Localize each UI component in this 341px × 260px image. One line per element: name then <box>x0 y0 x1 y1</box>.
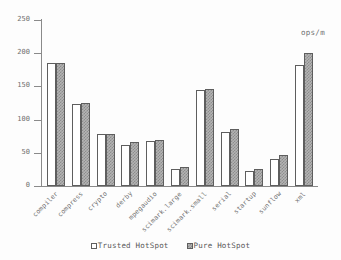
bar-pure-hotspot <box>81 103 90 186</box>
x-axis-line <box>41 186 318 187</box>
bar-trusted-hotspot <box>171 169 180 186</box>
bar-pure-hotspot <box>56 63 65 186</box>
x-axis-tick-label: xml <box>293 190 307 204</box>
bar-pure-hotspot <box>205 89 214 186</box>
y-axis-tick-label: 0 <box>26 181 34 190</box>
bar-pure-hotspot <box>230 129 239 186</box>
bar-group <box>97 20 115 186</box>
bar-pure-hotspot <box>304 53 313 186</box>
bar-group <box>270 20 288 186</box>
y-axis-tick: 200 <box>34 53 42 54</box>
legend-entry: Trusted HotSpot <box>91 241 169 251</box>
y-axis-tick: 100 <box>34 120 42 121</box>
bar-trusted-hotspot <box>270 159 279 186</box>
bar-group <box>72 20 90 186</box>
empty-square-swatch <box>91 243 97 249</box>
y-axis-tick: 50 <box>34 153 42 154</box>
bar-trusted-hotspot <box>121 145 130 186</box>
legend-label: Pure HotSpot <box>194 241 251 251</box>
bar-group <box>221 20 239 186</box>
bar-group <box>196 20 214 186</box>
bar-trusted-hotspot <box>221 132 230 186</box>
bar-group <box>295 20 313 186</box>
y-axis-tick-label: 200 <box>17 48 34 57</box>
bar-group <box>146 20 164 186</box>
bar-trusted-hotspot <box>72 104 81 186</box>
y-axis-tick-label: 250 <box>17 15 34 24</box>
y-axis-tick-label: 50 <box>22 148 34 157</box>
x-axis-tick-label: sunflow <box>257 190 283 216</box>
bar-pure-hotspot <box>106 134 115 186</box>
bar-trusted-hotspot <box>196 90 205 186</box>
bar-trusted-hotspot <box>47 63 56 186</box>
bar-trusted-hotspot <box>146 141 155 186</box>
bar-trusted-hotspot <box>97 134 106 186</box>
bar-pure-hotspot <box>180 167 189 186</box>
x-axis-tick-label: compress <box>56 190 85 219</box>
bar-group <box>245 20 263 186</box>
y-axis-tick-label: 150 <box>17 81 34 90</box>
y-axis-tick: 0 <box>34 186 42 187</box>
y-axis-tick-label: 100 <box>17 115 34 124</box>
bar-chart: ops/m 250200150100500 compilercompresscr… <box>0 0 341 260</box>
bar-group <box>47 20 65 186</box>
chart-legend: Trusted HotSpotPure HotSpot <box>0 241 341 251</box>
x-axis-tick-label: compiler <box>31 190 60 219</box>
bar-trusted-hotspot <box>295 65 304 187</box>
bar-trusted-hotspot <box>245 171 254 186</box>
x-axis-tick-label: derby <box>114 190 134 210</box>
bar-group <box>121 20 139 186</box>
legend-label: Trusted HotSpot <box>98 241 169 251</box>
plot-area <box>42 20 317 186</box>
bar-pure-hotspot <box>130 142 139 186</box>
legend-entry: Pure HotSpot <box>187 241 251 251</box>
bar-pure-hotspot <box>155 140 164 186</box>
y-axis-tick: 250 <box>34 20 42 21</box>
x-axis-tick-label: startup <box>232 190 258 216</box>
bar-group <box>171 20 189 186</box>
x-axis-tick-label: serial <box>210 190 233 213</box>
y-axis-tick: 150 <box>34 86 42 87</box>
x-axis-tick-label: crypto <box>86 190 109 213</box>
bar-pure-hotspot <box>254 169 263 186</box>
hatched-square-swatch <box>187 243 193 249</box>
bar-groups <box>42 20 317 186</box>
x-axis-labels: compilercompresscryptoderbympegaudioscim… <box>42 188 317 240</box>
bar-pure-hotspot <box>279 155 288 186</box>
